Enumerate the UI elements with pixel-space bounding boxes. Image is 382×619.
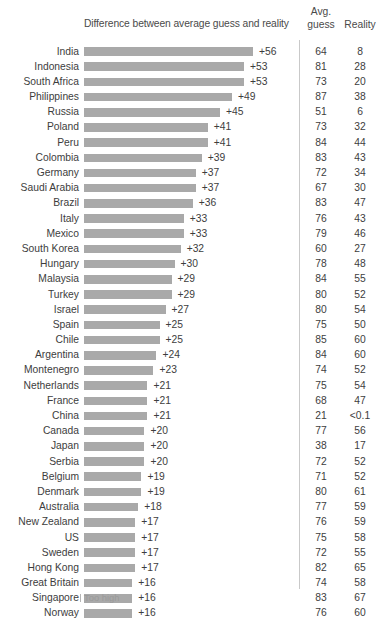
table-row: Saudi Arabia+376730 xyxy=(0,181,382,196)
reality-value: 55 xyxy=(338,547,382,558)
bar-column-title: Difference between average guess and rea… xyxy=(84,18,289,29)
table-row: Mexico+337946 xyxy=(0,226,382,241)
avg-guess-value: 73 xyxy=(301,76,341,87)
reality-value: 56 xyxy=(338,425,382,436)
difference-value-label: +29 xyxy=(178,289,195,300)
avg-guess-value: 72 xyxy=(301,456,341,467)
table-row: Australia+187759 xyxy=(0,500,382,515)
difference-value-label: +30 xyxy=(181,258,198,269)
reality-value: 65 xyxy=(338,562,382,573)
difference-value-label: +21 xyxy=(153,410,170,421)
country-label: Indonesia xyxy=(34,61,79,72)
country-label: China xyxy=(52,410,79,421)
difference-value-label: +17 xyxy=(141,547,158,558)
difference-bar xyxy=(84,305,166,314)
table-row: Argentina+248460 xyxy=(0,348,382,363)
avg-guess-value: 83 xyxy=(301,197,341,208)
avg-guess-value: 79 xyxy=(301,228,341,239)
country-label: Belgium xyxy=(42,471,79,482)
reality-value: 27 xyxy=(338,243,382,254)
country-label: South Africa xyxy=(23,76,79,87)
difference-bar xyxy=(84,138,208,147)
avg-guess-value: 67 xyxy=(301,182,341,193)
reality-value: 52 xyxy=(338,471,382,482)
country-label: Great Britain xyxy=(21,577,79,588)
difference-bar xyxy=(84,472,141,481)
table-row: Canada+207756 xyxy=(0,424,382,439)
reality-value: 47 xyxy=(338,395,382,406)
avg-guess-value: 76 xyxy=(301,607,341,618)
country-label: Hungary xyxy=(40,258,79,269)
table-row: South Korea+326027 xyxy=(0,241,382,256)
reality-value: 43 xyxy=(338,213,382,224)
difference-value-label: +39 xyxy=(208,152,225,163)
difference-value-label: +41 xyxy=(214,137,231,148)
country-label: Netherlands xyxy=(23,380,79,391)
reality-value: 59 xyxy=(338,516,382,527)
table-row: Israel+278054 xyxy=(0,302,382,317)
reality-value: 43 xyxy=(338,152,382,163)
difference-value-label: +20 xyxy=(150,440,167,451)
avg-guess-value: 73 xyxy=(301,121,341,132)
country-label: Montenegro xyxy=(24,364,79,375)
difference-bar xyxy=(84,564,135,573)
reality-value: 52 xyxy=(338,289,382,300)
table-row: Malaysia+298455 xyxy=(0,272,382,287)
difference-bar xyxy=(84,381,147,390)
country-label: India xyxy=(57,46,79,57)
table-row: Colombia+398343 xyxy=(0,150,382,165)
avg-guess-value: 64 xyxy=(301,46,341,57)
avg-guess-value: 81 xyxy=(301,61,341,72)
table-row: Montenegro+237452 xyxy=(0,363,382,378)
difference-value-label: +21 xyxy=(153,395,170,406)
country-label: Norway xyxy=(44,607,79,618)
difference-value-label: +49 xyxy=(238,91,255,102)
difference-value-label: +33 xyxy=(190,213,207,224)
reality-value: 54 xyxy=(338,304,382,315)
reality-value: 20 xyxy=(338,76,382,87)
difference-bar xyxy=(84,412,147,421)
reality-value: 32 xyxy=(338,121,382,132)
avg-guess-value: 77 xyxy=(301,425,341,436)
avg-guess-value: 80 xyxy=(301,304,341,315)
table-row: Indonesia+538128 xyxy=(0,59,382,74)
country-label: Turkey xyxy=(48,289,79,300)
difference-bar xyxy=(84,548,135,557)
chart-rows: India+56648Indonesia+538128South Africa+… xyxy=(0,44,382,619)
avg-guess-value: 75 xyxy=(301,380,341,391)
difference-value-label: +37 xyxy=(202,167,219,178)
difference-value-label: +25 xyxy=(166,319,183,330)
table-row: Serbia+207252 xyxy=(0,454,382,469)
avg-guess-value: 80 xyxy=(301,486,341,497)
reality-value: 54 xyxy=(338,380,382,391)
avg-guess-value: 84 xyxy=(301,273,341,284)
reality-value: 58 xyxy=(338,577,382,588)
reality-column-header: Reality xyxy=(338,19,382,30)
table-row: France+216847 xyxy=(0,393,382,408)
difference-bar xyxy=(84,290,172,299)
country-label: Colombia xyxy=(36,152,80,163)
chart-header: Difference between average guess and rea… xyxy=(0,0,382,44)
country-label: Argentina xyxy=(35,349,79,360)
difference-value-label: +45 xyxy=(226,106,243,117)
difference-value-label: +23 xyxy=(159,364,176,375)
country-label: Chile xyxy=(56,334,79,345)
avg-guess-value: 74 xyxy=(301,577,341,588)
country-label: Italy xyxy=(60,213,79,224)
avg-guess-value: 72 xyxy=(301,547,341,558)
reality-value: 17 xyxy=(338,440,382,451)
avg-guess-value: 74 xyxy=(301,364,341,375)
difference-bar xyxy=(84,366,153,375)
difference-bar xyxy=(84,214,184,223)
difference-bar xyxy=(84,442,144,451)
difference-value-label: +20 xyxy=(150,425,167,436)
avg-guess-value: 82 xyxy=(301,562,341,573)
country-label: Russia xyxy=(48,106,79,117)
difference-bar xyxy=(84,533,135,542)
difference-value-label: +18 xyxy=(144,501,161,512)
table-row: Peru+418444 xyxy=(0,135,382,150)
legend-label-too-high: Too high xyxy=(84,592,119,603)
difference-value-label: +32 xyxy=(187,243,204,254)
reality-value: 60 xyxy=(338,349,382,360)
table-row: Norway+167660 xyxy=(0,606,382,619)
